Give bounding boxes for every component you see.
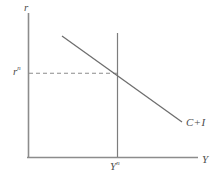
natural-output-label-superscript: n xyxy=(116,159,119,166)
natural-rate-label: rn xyxy=(13,65,21,77)
natural-output-label: Yn xyxy=(110,160,120,172)
natural-rate-label-superscript: n xyxy=(17,64,20,71)
consumption-investment-curve xyxy=(62,36,182,122)
curve-label-second-term: I xyxy=(202,116,206,128)
x-axis-label: Y xyxy=(202,154,208,165)
y-axis-label: r xyxy=(24,2,28,13)
economics-diagram-figure: r Y rn Yn C+I xyxy=(0,0,219,187)
curve-label-operator: + xyxy=(193,116,201,128)
curve-label: C+I xyxy=(186,117,205,128)
